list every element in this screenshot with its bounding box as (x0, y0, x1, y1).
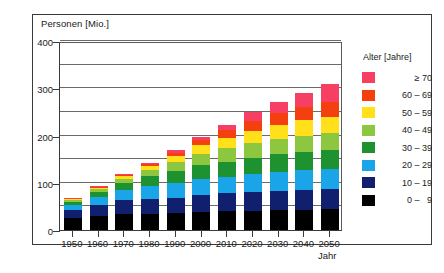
bar-segment (270, 113, 288, 125)
bar-1960 (90, 186, 108, 230)
x-tick-mark (72, 231, 73, 237)
bar-segment (244, 158, 262, 174)
legend-swatch (362, 72, 375, 83)
gridline (60, 87, 341, 88)
bar-segment (141, 186, 159, 199)
bar-segment (167, 213, 185, 230)
x-tick-mark (175, 231, 176, 237)
bar-segment (218, 162, 236, 177)
y-tick-mark (53, 231, 60, 232)
bar-segment (218, 211, 236, 230)
bar-segment (244, 192, 262, 211)
bar-segment (218, 130, 236, 138)
x-tick-mark (98, 231, 99, 237)
bar-segment (321, 84, 339, 102)
legend-label: 50 – 59 (375, 108, 434, 118)
bar-1970 (115, 174, 133, 230)
bar-segment (295, 170, 313, 189)
bar-segment (167, 162, 185, 171)
bar-segment (321, 169, 339, 189)
x-tick-label: 1960 (87, 238, 108, 249)
legend-swatch (362, 195, 375, 206)
legend-swatch (362, 90, 375, 101)
bar-segment (295, 120, 313, 135)
bar-segment (115, 214, 133, 230)
bar-segment (167, 171, 185, 183)
bar-segment (244, 112, 262, 121)
bar-segment (218, 177, 236, 194)
bar-segment (244, 143, 262, 158)
legend: Alter [Jahre] ≥ 7060 – 6950 – 5940 – 493… (362, 52, 434, 209)
x-axis-caption: Jahr (318, 250, 336, 261)
bar-segment (295, 136, 313, 153)
bar-2020 (244, 112, 262, 230)
bar-segment (270, 154, 288, 171)
plot-area (59, 42, 342, 231)
bar-segment (295, 190, 313, 210)
x-tick-label: 2050 (319, 238, 340, 249)
x-tick-mark (329, 231, 330, 237)
gridline (60, 40, 341, 41)
y-tick-label: 400 (37, 37, 53, 48)
x-tick-label: 2010 (216, 238, 237, 249)
chart-figure: Personen [Mio.] 0100200300400 1950196019… (0, 0, 444, 273)
legend-rows: ≥ 7060 – 6950 – 5940 – 4930 – 3920 – 291… (362, 69, 434, 209)
bar-segment (90, 197, 108, 205)
bar-segment (167, 183, 185, 198)
bar-segment (115, 183, 133, 190)
bar-2040 (295, 93, 313, 230)
x-tick-label: 1980 (138, 238, 159, 249)
bar-1950 (64, 198, 82, 230)
legend-swatch (362, 125, 375, 136)
bar-segment (192, 179, 210, 195)
gridline (60, 64, 341, 65)
legend-swatch (362, 177, 375, 188)
legend-swatch (362, 160, 375, 171)
x-tick-label: 1970 (113, 238, 134, 249)
legend-item: 40 – 49 (362, 122, 434, 140)
bar-segment (321, 209, 339, 230)
legend-label: 30 – 39 (375, 143, 434, 153)
legend-label: 60 – 69 (375, 90, 434, 100)
bar-2010 (218, 125, 236, 230)
bar-segment (270, 210, 288, 230)
legend-label: 10 – 19 (375, 178, 434, 188)
bar-1990 (167, 150, 185, 230)
bar-segment (321, 150, 339, 169)
bar-segment (270, 172, 288, 191)
bar-segment (141, 176, 159, 185)
bar-segment (64, 210, 82, 218)
x-tick-label: 1990 (164, 238, 185, 249)
x-tick-mark (278, 231, 279, 237)
bar-segment (192, 195, 210, 212)
legend-item: 30 – 39 (362, 139, 434, 157)
bar-segment (244, 131, 262, 143)
bar-segment (295, 93, 313, 108)
x-tick-mark (123, 231, 124, 237)
bar-segment (115, 190, 133, 200)
x-tick-mark (149, 231, 150, 237)
bar-segment (192, 212, 210, 230)
bar-segment (90, 205, 108, 216)
bar-segment (192, 165, 210, 179)
legend-swatch (362, 142, 375, 153)
x-tick-label: 2020 (241, 238, 262, 249)
bar-segment (90, 216, 108, 230)
bar-segment (141, 199, 159, 215)
x-tick-label: 2030 (267, 238, 288, 249)
x-tick-mark (252, 231, 253, 237)
bar-2050 (321, 84, 339, 230)
bar-segment (295, 107, 313, 120)
legend-label: 40 – 49 (375, 125, 434, 135)
bar-segment (321, 189, 339, 209)
legend-item: 60 – 69 (362, 87, 434, 105)
bar-segment (270, 191, 288, 210)
x-tick-label: 1950 (61, 238, 82, 249)
x-tick-label: 2040 (293, 238, 314, 249)
legend-label: ≥ 70 (375, 73, 434, 83)
y-tick-label: 200 (37, 131, 53, 142)
bar-segment (115, 200, 133, 214)
y-axis-caption: Personen [Mio.] (41, 18, 109, 29)
bar-segment (321, 102, 339, 117)
legend-item: ≥ 70 (362, 69, 434, 87)
